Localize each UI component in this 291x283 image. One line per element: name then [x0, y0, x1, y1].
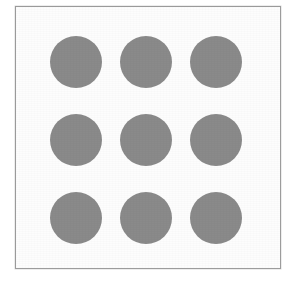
dot-r2c2 — [120, 114, 172, 166]
dot-r3c1 — [50, 192, 102, 244]
figure-frame — [15, 6, 281, 269]
dot-r3c3 — [190, 192, 242, 244]
dot-r1c2 — [120, 36, 172, 88]
dot-r2c3 — [190, 114, 242, 166]
dot-grid — [16, 7, 280, 268]
dot-r2c1 — [50, 114, 102, 166]
dot-r1c3 — [190, 36, 242, 88]
figure-canvas — [0, 0, 291, 283]
dot-r1c1 — [50, 36, 102, 88]
dot-r3c2 — [120, 192, 172, 244]
